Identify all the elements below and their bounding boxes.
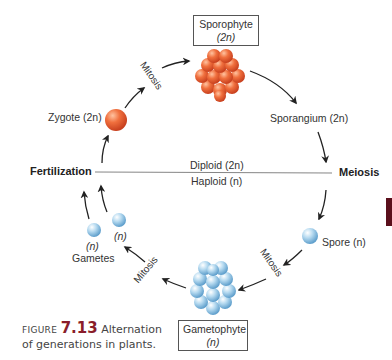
gametophyte-cluster-icon xyxy=(190,261,236,315)
gamete-right-icon xyxy=(112,213,126,227)
spore-cell-icon xyxy=(302,228,318,244)
ploidy-divider-line xyxy=(95,172,332,173)
gamete-left-icon xyxy=(87,223,101,237)
zygote-label: Zygote (2n) xyxy=(48,111,102,123)
arrow-sporophyte-to-sporangium xyxy=(250,71,296,103)
gametophyte-label-box: Gametophyte (n) xyxy=(178,320,248,351)
arrow-mitosis-to-sporophyte xyxy=(162,61,189,68)
zygote-cell-icon xyxy=(105,109,127,131)
arrow-fertilization-to-zygote xyxy=(102,136,108,163)
sporangium-label: Sporangium (2n) xyxy=(270,112,348,124)
arrow-spore-to-mitosis xyxy=(284,250,302,265)
gametophyte-label: Gametophyte xyxy=(183,323,243,336)
sporophyte-label-box: Sporophyte (2n) xyxy=(193,15,259,46)
gamete-left-ploidy: (n) xyxy=(86,240,99,252)
arrow-gamete-left-to-fertilization xyxy=(84,192,89,219)
figure-caption: Figure 7.13 Alternation of generations i… xyxy=(22,318,162,353)
haploid-label: Haploid (n) xyxy=(191,175,242,187)
arrow-mitosis-to-gametophyte xyxy=(239,279,266,290)
arrow-zygote-to-mitosis xyxy=(125,88,144,108)
gamete-right-ploidy: (n) xyxy=(114,230,127,242)
arrow-sporangium-to-meiosis xyxy=(318,132,326,162)
arrow-gamete-right-to-fertilization xyxy=(101,186,107,212)
sporophyte-ploidy: (2n) xyxy=(198,31,254,44)
caption-line1: Alternation xyxy=(101,323,162,336)
caption-line2: of generations in plants. xyxy=(22,338,162,353)
sporophyte-cluster-icon xyxy=(195,49,245,102)
sporophyte-label: Sporophyte xyxy=(198,18,254,31)
arrow-mitosis-to-gametes xyxy=(125,247,145,262)
chapter-tab-marker xyxy=(386,198,392,226)
gametes-label: Gametes xyxy=(72,252,115,264)
meiosis-label: Meiosis xyxy=(339,166,379,179)
arrow-meiosis-to-spore xyxy=(319,190,326,219)
fertilization-label: Fertilization xyxy=(30,165,92,178)
spore-label: Spore (n) xyxy=(322,236,366,248)
caption-number: 7.13 xyxy=(61,319,98,337)
arrow-gametophyte-to-mitosis xyxy=(163,279,186,288)
diploid-label: Diploid (2n) xyxy=(190,159,244,171)
gametophyte-ploidy: (n) xyxy=(183,336,243,349)
caption-prefix: Figure xyxy=(22,325,57,335)
alternation-diagram: Sporophyte (2n) Mitosis Zygote (2n) Spor… xyxy=(0,0,392,360)
